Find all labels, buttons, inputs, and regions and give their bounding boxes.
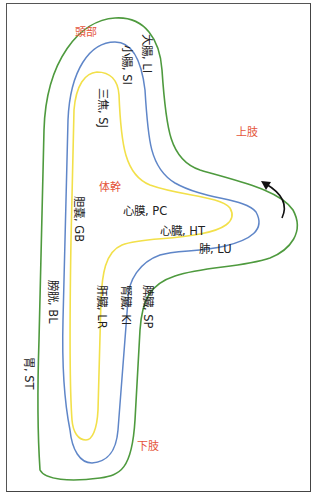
region-label-lower-limb: 下肢: [137, 441, 159, 452]
label-bladder-bl: 膀胱, BL: [47, 280, 59, 324]
label-gallbladder-gb: 胆嚢, GB: [73, 196, 85, 242]
region-label-upper-limb: 上肢: [236, 127, 258, 138]
label-large-intestine-li: 大腸, LI: [141, 34, 153, 73]
label-spleen-sp: 脾臓, SP: [142, 285, 154, 329]
label-lung-lu: 肺, LU: [199, 244, 232, 256]
label-kidney-ki: 腎臓, KI: [120, 285, 132, 325]
label-triple-burner-sj: 三焦, SJ: [97, 88, 109, 128]
label-heart-ht: 心臓, HT: [160, 226, 205, 238]
inner-curve: [70, 72, 232, 440]
region-label-trunk: 体幹: [99, 182, 121, 193]
region-label-head: 頭部: [75, 27, 97, 38]
label-stomach-st: 胃, ST: [23, 357, 35, 390]
label-small-intestine-si: 小腸, SI: [121, 45, 133, 85]
outer-curve: [38, 18, 297, 480]
label-liver-lr: 肝臓, LR: [96, 285, 108, 329]
meridian-flow-diagram: [0, 0, 318, 499]
curved-arrow-icon: [266, 184, 284, 218]
label-pericardium-pc: 心膜, PC: [123, 206, 167, 218]
